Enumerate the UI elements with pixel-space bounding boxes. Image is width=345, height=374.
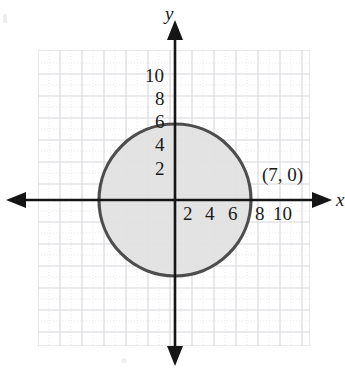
y-tick-label-2: 2 — [155, 159, 165, 178]
y-axis-label: y — [165, 4, 173, 23]
scan-artifact-bottom — [121, 358, 127, 363]
x-tick-label-10: 10 — [273, 204, 292, 223]
x-tick-label-2: 2 — [183, 204, 193, 223]
y-tick-label-8: 8 — [155, 89, 165, 108]
scan-artifact-top-left — [3, 14, 7, 23]
x-tick-label-6: 6 — [228, 204, 238, 223]
coordinate-plane-figure: y x 10 8 6 4 2 2 4 6 8 10 (7, 0) — [0, 0, 345, 374]
y-tick-label-4: 4 — [155, 135, 165, 154]
graph-svg — [0, 0, 345, 374]
x-tick-label-8: 8 — [255, 204, 265, 223]
y-tick-label-6: 6 — [155, 112, 165, 131]
x-tick-label-4: 4 — [205, 204, 215, 223]
y-tick-label-10: 10 — [145, 66, 164, 85]
x-axis-label: x — [336, 190, 344, 209]
y-axis-arrow-down — [167, 346, 183, 366]
point-label-7-0: (7, 0) — [262, 165, 303, 184]
x-axis-arrow-left — [6, 192, 26, 208]
x-axis-arrow-right — [312, 192, 332, 208]
